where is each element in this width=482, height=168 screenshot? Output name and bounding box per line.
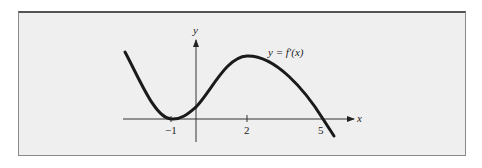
y-axis-label: y: [192, 24, 198, 36]
tick-label-m1: −1: [165, 124, 177, 136]
x-axis-label: x: [356, 112, 362, 124]
curve-label: y = f′(x): [267, 46, 304, 59]
tick-label-5: 5: [318, 124, 324, 136]
tick-label-2: 2: [244, 124, 250, 136]
f-prime-curve: [125, 52, 334, 136]
plot-area: y x y = f′(x) −1 2 5: [0, 0, 482, 168]
